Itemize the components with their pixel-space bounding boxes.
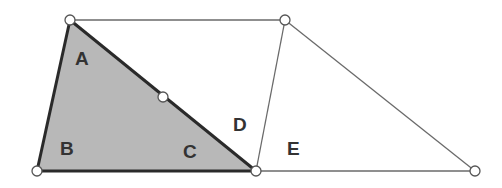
vertex-bottom-left — [32, 166, 42, 176]
label-c: C — [183, 141, 197, 162]
geometry-diagram: A B C D E — [0, 0, 502, 188]
vertex-bottom-middle — [251, 166, 261, 176]
middle-diagonal — [256, 20, 285, 171]
label-d: D — [233, 114, 247, 135]
vertex-top-left — [65, 15, 75, 25]
label-e: E — [287, 138, 300, 159]
label-a: A — [75, 48, 89, 69]
vertex-hypotenuse-midpoint — [158, 92, 168, 102]
vertex-bottom-right — [470, 166, 480, 176]
right-diagonal — [285, 20, 475, 171]
label-b: B — [60, 138, 74, 159]
vertex-top-right — [280, 15, 290, 25]
